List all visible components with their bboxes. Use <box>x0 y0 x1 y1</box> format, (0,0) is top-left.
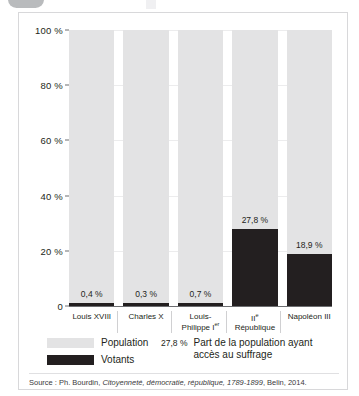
x-axis-category-label: IIeRépublique <box>232 309 277 335</box>
source-suffix: , Belin, 2014. <box>263 378 307 387</box>
bar-votants <box>287 254 332 306</box>
bar-votants <box>232 229 277 306</box>
source-prefix: Source : Ph. Bourdin, <box>29 378 102 387</box>
bar-value-label: 0,3 % <box>135 289 157 299</box>
bar-column[interactable]: 0,4 % <box>69 30 114 306</box>
bar-column[interactable]: 18,9 % <box>287 30 332 306</box>
bar-value-label: 0,4 % <box>81 289 103 299</box>
bar-population <box>123 30 168 306</box>
top-badge-fragment <box>8 0 44 8</box>
bar-population <box>69 30 114 306</box>
legend-annotation-value: 27,8 % <box>161 337 187 348</box>
bar-votants <box>69 303 114 306</box>
legend-swatch-population <box>47 338 94 348</box>
top-smudge-fragment <box>146 0 156 9</box>
bar-value-label: 18,9 % <box>296 240 322 250</box>
figure-container: 100 %80 %60 %40 %20 %0 0,4 %0,3 %0,7 %27… <box>18 12 348 390</box>
bar-group: 0,4 %0,3 %0,7 %27,8 %18,9 % <box>69 30 332 306</box>
bar-population <box>178 30 223 306</box>
x-axis-category-label: Napoléon III <box>287 309 332 335</box>
legend-annotation: 27,8 % Part de la population ayant accès… <box>161 337 341 361</box>
legend-label-votants: Votants <box>101 354 134 365</box>
legend-annotation-text: Part de la population ayant accès au suf… <box>193 337 341 361</box>
bar-votants <box>123 303 168 306</box>
bar-votants <box>178 303 223 306</box>
source-title: Citoyenneté, démocratie, république, 178… <box>102 378 263 387</box>
x-axis-category-label: Louis-Philippe Ier <box>178 309 223 335</box>
legend-label-population: Population <box>101 337 148 348</box>
bar-value-label: 27,8 % <box>242 215 268 225</box>
source-divider <box>29 373 339 374</box>
plot-inner: 100 %80 %60 %40 %20 %0 0,4 %0,3 %0,7 %27… <box>69 30 332 306</box>
x-axis-category-labels: Louis XVIIICharles XLouis-Philippe IerII… <box>69 309 332 335</box>
bar-column[interactable]: 27,8 % <box>232 30 277 306</box>
plot-area: 100 %80 %60 %40 %20 %0 0,4 %0,3 %0,7 %27… <box>19 13 349 313</box>
bar-column[interactable]: 0,7 % <box>178 30 223 306</box>
bar-column[interactable]: 0,3 % <box>123 30 168 306</box>
x-axis-line <box>69 306 332 307</box>
x-axis-category-label: Louis XVIII <box>69 309 114 335</box>
x-axis-category-label: Charles X <box>123 309 168 335</box>
legend-swatch-votants <box>47 355 94 365</box>
legend-item-votants: Votants <box>47 354 134 365</box>
y-axis-tick-label: 100 % <box>35 25 69 36</box>
source-citation: Source : Ph. Bourdin, Citoyenneté, démoc… <box>29 378 341 388</box>
chart-legend: Population Votants 27,8 % Part de la pop… <box>39 337 339 371</box>
bar-value-label: 0,7 % <box>190 289 212 299</box>
legend-item-population: Population <box>47 337 148 348</box>
